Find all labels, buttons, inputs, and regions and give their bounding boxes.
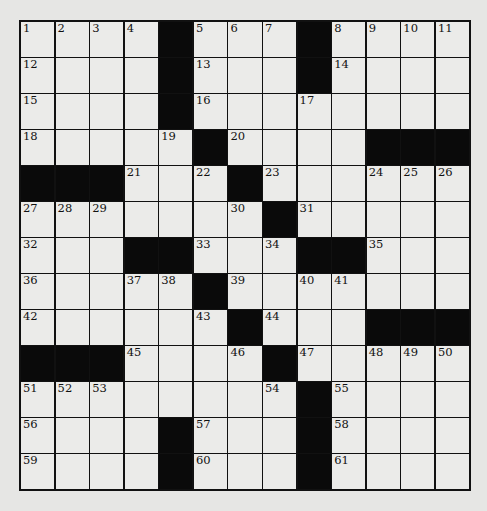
crossword-cell[interactable]: 8	[332, 22, 365, 57]
crossword-cell[interactable]	[298, 166, 331, 201]
crossword-cell[interactable]	[367, 202, 400, 237]
crossword-cell[interactable]	[401, 382, 434, 417]
crossword-cell[interactable]: 53	[90, 382, 123, 417]
crossword-cell[interactable]	[56, 58, 89, 93]
crossword-cell[interactable]	[228, 58, 261, 93]
crossword-cell[interactable]: 12	[21, 58, 54, 93]
crossword-cell[interactable]	[332, 166, 365, 201]
crossword-cell[interactable]: 11	[436, 22, 469, 57]
crossword-cell[interactable]	[401, 202, 434, 237]
crossword-cell[interactable]: 44	[263, 310, 296, 345]
crossword-cell[interactable]: 47	[298, 346, 331, 381]
crossword-cell[interactable]: 34	[263, 238, 296, 273]
crossword-cell[interactable]	[159, 346, 192, 381]
crossword-cell[interactable]	[263, 58, 296, 93]
crossword-cell[interactable]	[56, 310, 89, 345]
crossword-cell[interactable]	[125, 454, 158, 489]
crossword-cell[interactable]	[401, 58, 434, 93]
crossword-cell[interactable]: 32	[21, 238, 54, 273]
crossword-cell[interactable]	[367, 58, 400, 93]
crossword-cell[interactable]	[194, 346, 227, 381]
crossword-cell[interactable]	[228, 418, 261, 453]
crossword-cell[interactable]: 3	[90, 22, 123, 57]
crossword-cell[interactable]	[194, 382, 227, 417]
crossword-cell[interactable]: 58	[332, 418, 365, 453]
crossword-cell[interactable]	[90, 274, 123, 309]
crossword-cell[interactable]	[367, 454, 400, 489]
crossword-cell[interactable]: 42	[21, 310, 54, 345]
crossword-cell[interactable]	[90, 58, 123, 93]
crossword-cell[interactable]: 9	[367, 22, 400, 57]
crossword-cell[interactable]	[90, 310, 123, 345]
crossword-cell[interactable]	[436, 238, 469, 273]
crossword-cell[interactable]: 33	[194, 238, 227, 273]
crossword-cell[interactable]	[90, 130, 123, 165]
crossword-cell[interactable]	[125, 310, 158, 345]
crossword-cell[interactable]	[125, 94, 158, 129]
crossword-cell[interactable]: 26	[436, 166, 469, 201]
crossword-cell[interactable]: 16	[194, 94, 227, 129]
crossword-cell[interactable]: 40	[298, 274, 331, 309]
crossword-cell[interactable]: 20	[228, 130, 261, 165]
crossword-cell[interactable]	[332, 130, 365, 165]
crossword-cell[interactable]: 22	[194, 166, 227, 201]
crossword-cell[interactable]: 50	[436, 346, 469, 381]
crossword-cell[interactable]: 51	[21, 382, 54, 417]
crossword-cell[interactable]: 18	[21, 130, 54, 165]
crossword-cell[interactable]	[56, 238, 89, 273]
crossword-cell[interactable]	[125, 202, 158, 237]
crossword-cell[interactable]: 31	[298, 202, 331, 237]
crossword-cell[interactable]	[56, 454, 89, 489]
crossword-cell[interactable]: 15	[21, 94, 54, 129]
crossword-cell[interactable]	[401, 274, 434, 309]
crossword-cell[interactable]	[436, 382, 469, 417]
crossword-cell[interactable]	[436, 454, 469, 489]
crossword-cell[interactable]	[436, 58, 469, 93]
crossword-cell[interactable]	[332, 94, 365, 129]
crossword-cell[interactable]: 6	[228, 22, 261, 57]
crossword-cell[interactable]	[56, 418, 89, 453]
crossword-cell[interactable]	[263, 274, 296, 309]
crossword-cell[interactable]: 61	[332, 454, 365, 489]
crossword-cell[interactable]	[159, 166, 192, 201]
crossword-cell[interactable]: 23	[263, 166, 296, 201]
crossword-cell[interactable]	[56, 130, 89, 165]
crossword-cell[interactable]	[401, 94, 434, 129]
crossword-cell[interactable]	[90, 418, 123, 453]
crossword-cell[interactable]	[298, 310, 331, 345]
crossword-cell[interactable]	[159, 202, 192, 237]
crossword-cell[interactable]: 55	[332, 382, 365, 417]
crossword-cell[interactable]	[367, 418, 400, 453]
crossword-cell[interactable]: 1	[21, 22, 54, 57]
crossword-cell[interactable]: 7	[263, 22, 296, 57]
crossword-cell[interactable]: 10	[401, 22, 434, 57]
crossword-cell[interactable]	[125, 130, 158, 165]
crossword-cell[interactable]	[263, 130, 296, 165]
crossword-cell[interactable]: 37	[125, 274, 158, 309]
crossword-cell[interactable]	[332, 202, 365, 237]
crossword-cell[interactable]: 30	[228, 202, 261, 237]
crossword-cell[interactable]	[263, 418, 296, 453]
crossword-cell[interactable]	[263, 454, 296, 489]
crossword-cell[interactable]: 39	[228, 274, 261, 309]
crossword-cell[interactable]	[367, 274, 400, 309]
crossword-cell[interactable]: 27	[21, 202, 54, 237]
crossword-cell[interactable]	[436, 94, 469, 129]
crossword-cell[interactable]: 29	[90, 202, 123, 237]
crossword-cell[interactable]	[436, 418, 469, 453]
crossword-cell[interactable]	[332, 346, 365, 381]
crossword-cell[interactable]	[159, 310, 192, 345]
crossword-cell[interactable]: 46	[228, 346, 261, 381]
crossword-cell[interactable]	[436, 274, 469, 309]
crossword-cell[interactable]: 57	[194, 418, 227, 453]
crossword-cell[interactable]: 2	[56, 22, 89, 57]
crossword-cell[interactable]: 52	[56, 382, 89, 417]
crossword-cell[interactable]	[228, 454, 261, 489]
crossword-cell[interactable]	[401, 238, 434, 273]
crossword-cell[interactable]: 56	[21, 418, 54, 453]
crossword-cell[interactable]	[125, 418, 158, 453]
crossword-cell[interactable]	[90, 238, 123, 273]
crossword-cell[interactable]: 59	[21, 454, 54, 489]
crossword-cell[interactable]: 24	[367, 166, 400, 201]
crossword-cell[interactable]: 13	[194, 58, 227, 93]
